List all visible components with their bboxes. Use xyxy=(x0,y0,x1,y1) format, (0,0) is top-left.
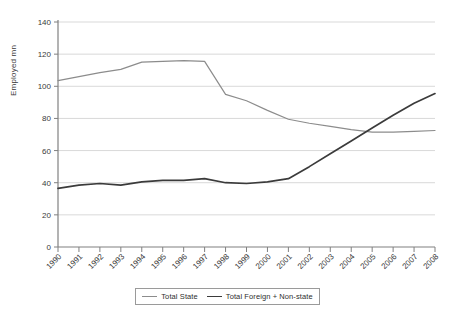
svg-text:2004: 2004 xyxy=(338,252,357,271)
svg-text:1992: 1992 xyxy=(86,252,105,271)
svg-text:1999: 1999 xyxy=(233,252,252,271)
svg-text:140: 140 xyxy=(38,18,52,27)
svg-text:2001: 2001 xyxy=(275,252,294,271)
svg-text:120: 120 xyxy=(38,50,52,59)
svg-text:1996: 1996 xyxy=(170,252,189,271)
x-tick-labels: 1990199119921993199419951996199719981999… xyxy=(44,252,440,271)
svg-text:2000: 2000 xyxy=(254,252,273,271)
data-series xyxy=(58,61,435,189)
svg-text:60: 60 xyxy=(42,147,51,156)
line-chart: Employed mn 020406080100120140 199019911… xyxy=(0,0,453,319)
chart-plot-area: 020406080100120140 199019911992199319941… xyxy=(0,0,453,319)
legend-item-total-state: Total State xyxy=(142,292,198,301)
x-tick-marks xyxy=(58,247,435,252)
svg-text:40: 40 xyxy=(42,179,51,188)
legend-item-total-foreign-nonstate: Total Foreign + Non-state xyxy=(207,292,313,301)
legend-swatch-total-state xyxy=(142,296,157,297)
svg-text:100: 100 xyxy=(38,82,52,91)
svg-text:2006: 2006 xyxy=(380,252,399,271)
svg-text:1994: 1994 xyxy=(128,252,147,271)
svg-text:1995: 1995 xyxy=(149,252,168,271)
svg-text:1997: 1997 xyxy=(191,252,210,271)
svg-text:1991: 1991 xyxy=(65,252,84,271)
svg-text:20: 20 xyxy=(42,211,51,220)
legend-label-total-state: Total State xyxy=(161,292,198,301)
svg-text:2008: 2008 xyxy=(421,252,440,271)
series-line-total-foreign-nonstate xyxy=(58,94,435,189)
gridlines xyxy=(58,22,435,215)
svg-text:1998: 1998 xyxy=(212,252,231,271)
series-line-total-state xyxy=(58,61,435,133)
svg-text:2003: 2003 xyxy=(317,252,336,271)
legend-label-total-foreign-nonstate: Total Foreign + Non-state xyxy=(226,292,313,301)
svg-text:2005: 2005 xyxy=(359,252,378,271)
svg-text:1990: 1990 xyxy=(44,252,63,271)
svg-text:0: 0 xyxy=(47,243,52,252)
svg-text:2002: 2002 xyxy=(296,252,315,271)
svg-text:1993: 1993 xyxy=(107,252,126,271)
svg-text:80: 80 xyxy=(42,114,51,123)
y-tick-labels: 020406080100120140 xyxy=(38,18,52,252)
svg-text:2007: 2007 xyxy=(401,252,420,271)
legend-swatch-total-foreign-nonstate xyxy=(207,296,222,297)
chart-legend: Total State Total Foreign + Non-state xyxy=(135,288,320,305)
